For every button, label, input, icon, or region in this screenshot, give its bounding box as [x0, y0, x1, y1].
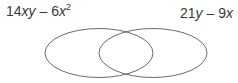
venn-diagram [0, 0, 238, 83]
